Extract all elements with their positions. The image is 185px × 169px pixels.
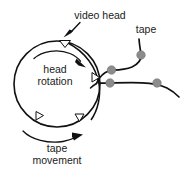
label-head-rotation-line1: head bbox=[43, 63, 67, 75]
label-video-head: video head bbox=[74, 9, 126, 21]
roller-lower-right-icon bbox=[153, 79, 162, 88]
tape-movement-arrow bbox=[23, 131, 83, 142]
label-tape-movement-line2: movement bbox=[32, 154, 81, 166]
label-tape-movement-line1: tape bbox=[47, 142, 68, 154]
video-head-pointer-arrow bbox=[64, 23, 81, 38]
roller-lower-left-icon bbox=[106, 79, 115, 88]
label-head-rotation-line2: rotation bbox=[37, 75, 72, 87]
figure-container: video head tape head rotation tape movem… bbox=[0, 0, 185, 169]
tape-strand-drum-lower-tangent bbox=[91, 84, 97, 89]
head-marker-bottom-left bbox=[36, 112, 44, 121]
video-head-diagram: video head tape head rotation tape movem… bbox=[0, 0, 185, 169]
roller-drum-exit-icon bbox=[107, 66, 116, 75]
roller-upper-right-icon bbox=[137, 51, 146, 60]
label-tape: tape bbox=[136, 23, 157, 35]
